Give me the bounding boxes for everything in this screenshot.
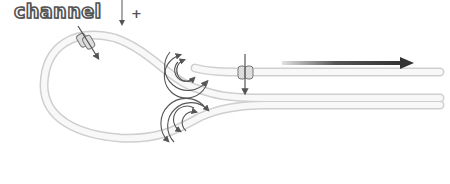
fiber-loop [44,35,440,138]
channel-label: channel [14,0,102,22]
ion-channel-icon [238,54,253,93]
diagram-canvas [0,0,450,184]
diagram: channel + [0,0,450,184]
flow-direction-arrow-icon [282,57,414,69]
plus-sign: + [131,6,142,21]
